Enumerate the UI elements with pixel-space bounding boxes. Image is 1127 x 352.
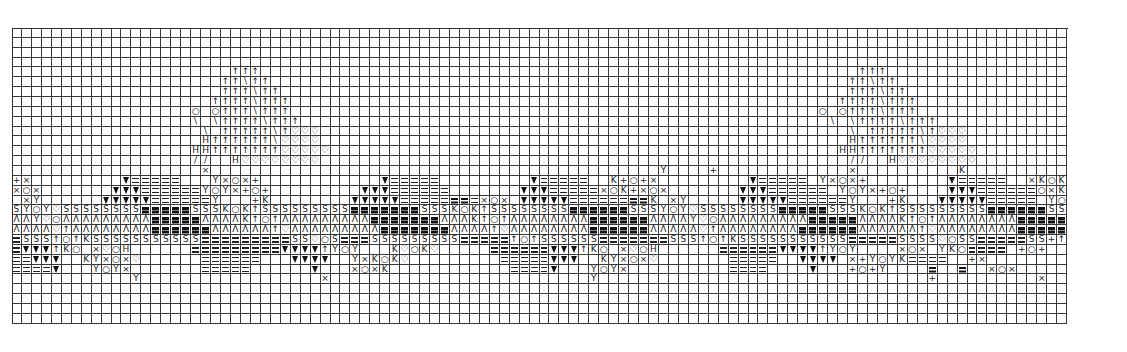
grid-cell bbox=[1037, 156, 1047, 166]
s-stitch-icon: S bbox=[768, 235, 778, 245]
grid-cell bbox=[131, 245, 141, 255]
grid-cell bbox=[928, 97, 938, 107]
arrow-up-icon: ↑ bbox=[221, 136, 231, 146]
antenna-knob-icon: ○ bbox=[818, 107, 828, 117]
grid-cell bbox=[639, 166, 649, 176]
s-stitch-icon: S bbox=[311, 205, 321, 215]
grid-cell bbox=[430, 67, 440, 77]
grid-cell bbox=[639, 274, 649, 284]
grid-cell bbox=[977, 314, 987, 324]
heart-icon: ♡ bbox=[52, 205, 62, 215]
grid-cell bbox=[291, 186, 301, 196]
open-triangle-icon: Λ bbox=[968, 215, 978, 225]
heavy-bar-icon bbox=[619, 205, 629, 215]
grid-cell bbox=[868, 166, 878, 176]
circle-stitch-icon: ○ bbox=[629, 255, 639, 265]
grid-cell bbox=[898, 265, 908, 275]
arrow-up-icon: ↑ bbox=[888, 107, 898, 117]
s-stitch-icon: S bbox=[928, 205, 938, 215]
grid-cell bbox=[669, 87, 679, 97]
heart-icon: ♡ bbox=[281, 156, 291, 166]
open-triangle-icon: Λ bbox=[977, 215, 987, 225]
heart-icon: ♡ bbox=[948, 146, 958, 156]
double-bar-icon bbox=[977, 176, 987, 186]
grid-cell bbox=[669, 186, 679, 196]
grid-cell bbox=[151, 245, 161, 255]
open-triangle-icon: Λ bbox=[201, 215, 211, 225]
grid-cell bbox=[808, 166, 818, 176]
grid-cell bbox=[231, 196, 241, 206]
s-stitch-icon: S bbox=[301, 205, 311, 215]
grid-cell bbox=[639, 136, 649, 146]
grid-cell bbox=[1017, 166, 1027, 176]
grid-cell bbox=[92, 77, 102, 87]
grid-cell bbox=[470, 77, 480, 87]
grid-cell bbox=[321, 48, 331, 58]
plus-stitch-icon: + bbox=[1037, 245, 1047, 255]
heavy-bar-icon bbox=[161, 205, 171, 215]
cross-stitch-icon: × bbox=[22, 196, 32, 206]
grid-cell bbox=[52, 186, 62, 196]
s-stitch-icon: S bbox=[211, 205, 221, 215]
double-bar-icon bbox=[42, 265, 52, 275]
grid-cell bbox=[669, 48, 679, 58]
grid-cell bbox=[559, 294, 569, 304]
grid-cell bbox=[430, 156, 440, 166]
cross-stitch-icon: × bbox=[619, 255, 629, 265]
grid-cell bbox=[1007, 58, 1017, 68]
grid-cell bbox=[62, 127, 72, 137]
arrow-up-icon: ↑ bbox=[211, 97, 221, 107]
arrow-up-icon: ↑ bbox=[918, 225, 928, 235]
double-bar-icon bbox=[739, 245, 749, 255]
grid-cell bbox=[838, 48, 848, 58]
grid-cell bbox=[72, 166, 82, 176]
grid-cell bbox=[549, 97, 559, 107]
grid-cell bbox=[589, 58, 599, 68]
plus-stitch-icon: + bbox=[251, 196, 261, 206]
grid-cell bbox=[340, 28, 350, 38]
grid-cell bbox=[918, 107, 928, 117]
open-triangle-icon: Λ bbox=[82, 215, 92, 225]
grid-cell bbox=[968, 304, 978, 314]
grid-cell bbox=[62, 196, 72, 206]
arrow-up-icon: ↑ bbox=[878, 146, 888, 156]
grid-cell bbox=[331, 67, 341, 77]
circle-stitch-icon: ○ bbox=[599, 265, 609, 275]
antenna-knob-icon: ○ bbox=[838, 107, 848, 117]
grid-cell bbox=[928, 77, 938, 87]
grid-cell bbox=[639, 156, 649, 166]
grid-cell bbox=[221, 38, 231, 48]
grid-cell bbox=[350, 58, 360, 68]
grid-cell bbox=[1057, 136, 1067, 146]
y-stitch-icon: Y bbox=[609, 265, 619, 275]
grid-cell bbox=[569, 136, 579, 146]
arrow-up-icon: ↑ bbox=[888, 97, 898, 107]
heart-icon: ♡ bbox=[649, 255, 659, 265]
y-stitch-icon: Y bbox=[221, 186, 231, 196]
grid-cell bbox=[32, 146, 42, 156]
grid-cell bbox=[430, 265, 440, 275]
open-triangle-icon: Λ bbox=[460, 225, 470, 235]
circle-stitch-icon: ○ bbox=[490, 215, 500, 225]
grid-cell bbox=[1027, 87, 1037, 97]
grid-cell bbox=[430, 136, 440, 146]
grid-cell bbox=[948, 97, 958, 107]
grid-cell bbox=[480, 166, 490, 176]
grid-cell bbox=[699, 48, 709, 58]
grid-cell bbox=[1027, 58, 1037, 68]
grid-cell bbox=[540, 304, 550, 314]
grid-cell bbox=[1007, 67, 1017, 77]
grid-cell bbox=[510, 77, 520, 87]
double-bar-icon bbox=[579, 196, 589, 206]
arrow-up-icon: ↑ bbox=[908, 146, 918, 156]
grid-cell bbox=[599, 156, 609, 166]
double-bar-icon bbox=[161, 186, 171, 196]
grid-cell bbox=[141, 38, 151, 48]
grid-cell bbox=[430, 97, 440, 107]
grid-cell bbox=[828, 48, 838, 58]
grid-cell bbox=[788, 67, 798, 77]
diagonal-icon: / bbox=[858, 156, 868, 166]
s-stitch-icon: S bbox=[589, 235, 599, 245]
grid-cell bbox=[898, 77, 908, 87]
filled-triangle-icon bbox=[131, 196, 141, 206]
